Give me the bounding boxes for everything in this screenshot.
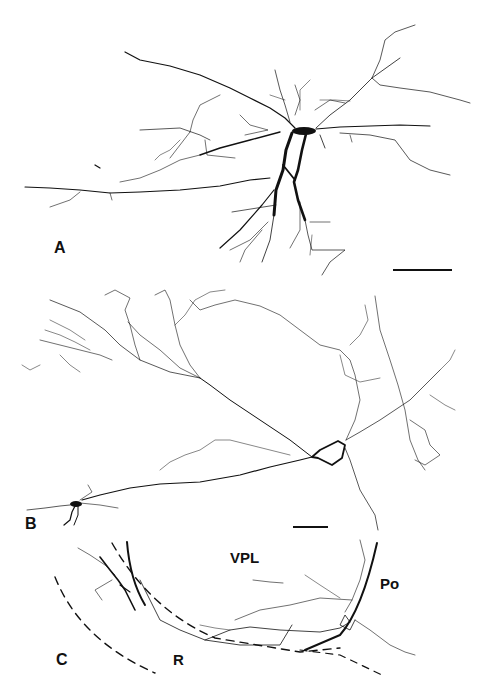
vpl-boundary-arc (305, 543, 377, 650)
panel-a-scale-bar (393, 269, 452, 271)
panel-c-label: C (56, 652, 68, 668)
panel-c-neuron-drawing (0, 0, 491, 690)
vpl-region-label: VPL (230, 550, 259, 565)
panel-a-label: A (54, 240, 66, 256)
inner-dashed-boundary (112, 543, 340, 652)
panel-b-scale-bar (293, 526, 328, 528)
r-region-label: R (173, 652, 184, 667)
neuron-figure: A B C VPL Po R (0, 0, 491, 690)
outer-dashed-boundary (55, 577, 155, 673)
po-region-label: Po (380, 576, 399, 591)
panel-b-label: B (25, 516, 37, 532)
